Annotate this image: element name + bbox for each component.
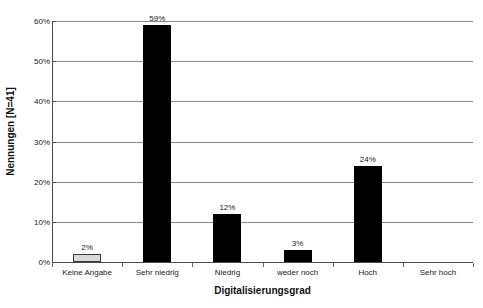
plot-area: 2%59%12%3%24% xyxy=(52,21,473,262)
y-axis-tick-mark xyxy=(52,61,56,62)
bar-value-label: 3% xyxy=(292,239,304,248)
x-axis-tick-mark xyxy=(333,263,334,267)
x-axis-tick-mark xyxy=(52,263,53,267)
y-axis-tick-label: 10% xyxy=(24,217,50,226)
bar-slot: 24% xyxy=(333,21,403,262)
x-axis-tick-label: Hoch xyxy=(333,268,403,277)
bar-slot xyxy=(403,21,473,262)
bar-slot: 12% xyxy=(192,21,262,262)
y-axis-tick-mark xyxy=(52,142,56,143)
x-axis-tick-label: Sehr hoch xyxy=(403,268,473,277)
bar-value-label: 2% xyxy=(81,243,93,252)
bar[interactable] xyxy=(73,254,101,262)
x-axis-tick-labels: Keine AngabeSehr niedrigNiedrigweder noc… xyxy=(52,268,473,282)
bar-value-label: 24% xyxy=(360,155,376,164)
y-axis-tick-mark xyxy=(52,182,56,183)
y-axis-tick-label: 40% xyxy=(24,97,50,106)
x-axis-tick-label: Keine Angabe xyxy=(52,268,122,277)
x-axis-tick-mark xyxy=(473,263,474,267)
bar-value-label: 12% xyxy=(219,203,235,212)
y-axis-title-text: Nennungen [N=41] xyxy=(5,87,16,176)
y-axis-title: Nennungen [N=41] xyxy=(0,0,20,262)
bar[interactable] xyxy=(354,166,382,262)
bar-slot: 2% xyxy=(52,21,122,262)
x-axis-tick-label: Sehr niedrig xyxy=(122,268,192,277)
y-axis-tick-mark xyxy=(52,222,56,223)
y-axis-tick-mark xyxy=(52,21,56,22)
y-axis-tick-label: 50% xyxy=(24,57,50,66)
x-axis-tick-mark xyxy=(403,263,404,267)
y-axis-tick-label: 60% xyxy=(24,17,50,26)
x-axis-tick-label: weder noch xyxy=(263,268,333,277)
bar-slot: 59% xyxy=(122,21,192,262)
x-axis-tick-mark xyxy=(192,263,193,267)
y-axis-tick-label: 30% xyxy=(24,137,50,146)
bar-chart: Nennungen [N=41] 0%10%20%30%40%50%60% 2%… xyxy=(0,0,483,308)
y-axis-tick-labels: 0%10%20%30%40%50%60% xyxy=(22,0,50,308)
y-axis-tick-label: 0% xyxy=(24,258,50,267)
x-axis-tick-mark xyxy=(263,263,264,267)
x-axis-tick-mark xyxy=(122,263,123,267)
x-axis-tick-label: Niedrig xyxy=(192,268,262,277)
bar-slot: 3% xyxy=(263,21,333,262)
bar[interactable] xyxy=(284,250,312,262)
bar[interactable] xyxy=(143,25,171,262)
bar[interactable] xyxy=(213,214,241,262)
x-axis-title: Digitalisierungsgrad xyxy=(52,285,473,296)
y-axis-tick-label: 20% xyxy=(24,177,50,186)
y-axis-tick-mark xyxy=(52,101,56,102)
bar-value-label: 59% xyxy=(149,14,165,23)
